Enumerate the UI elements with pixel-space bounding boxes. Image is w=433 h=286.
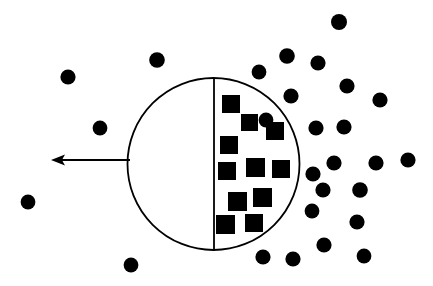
exterior-dot xyxy=(339,78,354,93)
interior-square xyxy=(266,122,284,140)
exterior-dot xyxy=(279,48,295,64)
interior-square xyxy=(241,114,258,131)
exterior-dot xyxy=(60,69,75,84)
exterior-dot xyxy=(149,52,165,68)
interior-square xyxy=(253,188,272,207)
interior-square xyxy=(245,214,263,232)
exterior-dot xyxy=(352,182,368,198)
exterior-dot xyxy=(372,92,387,107)
interior-square xyxy=(272,160,290,178)
exterior-dot xyxy=(315,182,330,197)
exterior-dot xyxy=(124,258,139,273)
exterior-dot xyxy=(21,195,36,210)
diagram-canvas xyxy=(0,0,433,286)
interior-square xyxy=(220,136,238,154)
exterior-dot xyxy=(308,120,323,135)
exterior-dot xyxy=(252,65,267,80)
exterior-dot xyxy=(93,121,108,136)
exterior-dot xyxy=(349,214,364,229)
interior-square xyxy=(228,192,247,211)
background xyxy=(0,0,433,286)
exterior-dot xyxy=(316,237,331,252)
exterior-dot xyxy=(368,155,383,170)
exterior-dot xyxy=(283,88,298,103)
diagram-svg xyxy=(0,0,433,286)
exterior-dot xyxy=(305,204,320,219)
exterior-dot xyxy=(400,152,415,167)
interior-square xyxy=(218,162,236,180)
exterior-dot xyxy=(326,155,341,170)
exterior-dot xyxy=(305,166,320,181)
interior-square xyxy=(246,158,265,177)
interior-square xyxy=(216,215,235,234)
exterior-dot xyxy=(285,251,300,266)
exterior-dot xyxy=(336,119,351,134)
exterior-dot xyxy=(331,14,347,30)
exterior-dot xyxy=(357,249,372,264)
exterior-dot xyxy=(255,249,270,264)
interior-square xyxy=(222,95,240,113)
exterior-dot xyxy=(310,55,325,70)
